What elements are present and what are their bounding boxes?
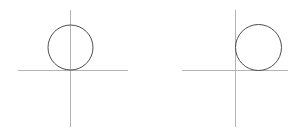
diagram-canvas bbox=[0, 0, 300, 133]
right-circle bbox=[236, 25, 282, 71]
right-panel bbox=[182, 10, 288, 127]
diagram-svg bbox=[0, 0, 300, 133]
left-panel bbox=[18, 10, 128, 127]
